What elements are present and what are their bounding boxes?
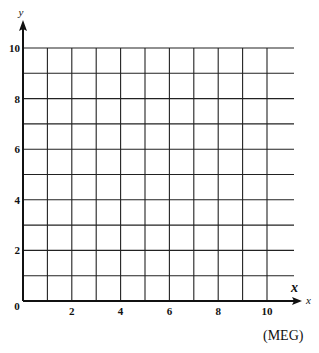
x-tick-label: 4 <box>118 305 124 317</box>
y-tick-label: 4 <box>15 194 21 206</box>
y-tick-label: 8 <box>15 93 21 105</box>
y-tick-label: 2 <box>15 244 21 256</box>
y-tick-label: 6 <box>15 143 21 155</box>
x-tick-label: 2 <box>69 305 75 317</box>
x-tick-label: 8 <box>215 305 221 317</box>
x-tick-label: 6 <box>167 305 173 317</box>
grid-chart: 2468102468100yxx <box>0 0 319 353</box>
x-tick-label: 10 <box>262 305 274 317</box>
x-annotation-label: x <box>290 280 298 295</box>
source-label: (MEG) <box>263 328 303 344</box>
y-tick-label: 10 <box>9 42 21 54</box>
origin-label: 0 <box>14 300 20 312</box>
y-axis-label: y <box>18 6 24 18</box>
x-axis-label: x <box>305 294 311 306</box>
